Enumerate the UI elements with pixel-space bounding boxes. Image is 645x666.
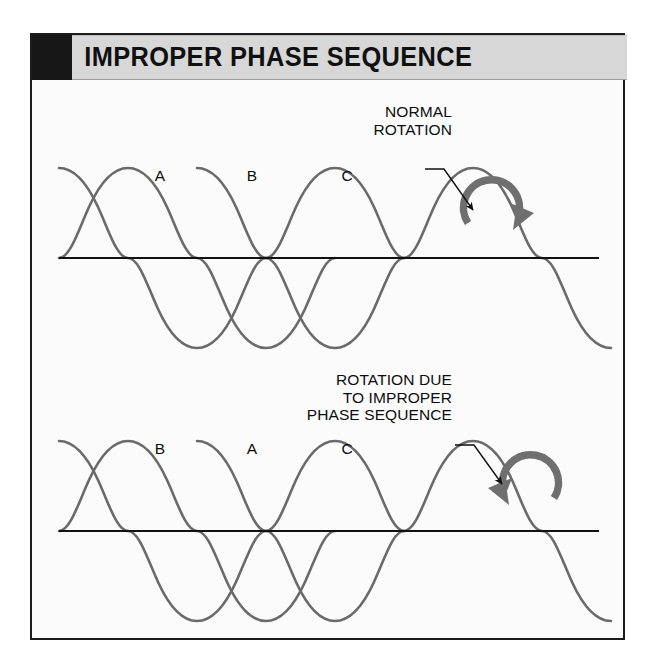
- improper-rotation-waveform: [59, 441, 611, 621]
- title-field: IMPROPER PHASE SEQUENCE: [72, 35, 627, 80]
- phase-label-upper-2: B: [242, 167, 262, 185]
- normal-rotation-annotation: NORMAL ROTATION: [322, 103, 452, 138]
- normal-rotation-waveform: [59, 168, 611, 348]
- phase-label-lower-1: B: [150, 440, 170, 458]
- phase-label-upper-3: C: [337, 167, 357, 185]
- diagram-canvas: [32, 80, 623, 638]
- phase-label-upper-1: A: [150, 167, 170, 185]
- normal-rotation-arrow: [463, 180, 534, 230]
- page-title: IMPROPER PHASE SEQUENCE: [72, 42, 472, 73]
- phase-label-lower-2: A: [242, 440, 262, 458]
- title-accent-block: [32, 35, 72, 80]
- title-bar: IMPROPER PHASE SEQUENCE: [32, 35, 627, 80]
- improper-rotation-annotation: ROTATION DUE TO IMPROPER PHASE SEQUENCE: [250, 371, 452, 424]
- diagram-plate: IMPROPER PHASE SEQUENCE: [30, 33, 625, 640]
- phase-label-lower-3: C: [337, 440, 357, 458]
